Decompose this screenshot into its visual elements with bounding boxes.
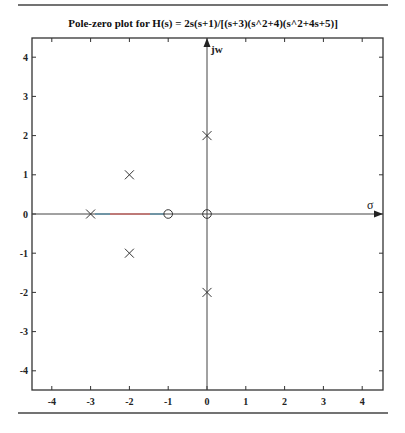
sigma-label: σ [367,198,374,212]
y-tick-label: -2 [20,287,28,298]
x-tick-label: 4 [360,396,365,407]
x-tick-label: 0 [205,396,210,407]
x-tick-label: 1 [243,396,248,407]
x-tick-label: -1 [164,396,172,407]
y-tick-label: -3 [20,326,28,337]
arrow-right-icon [374,211,383,218]
y-tick-label: -4 [20,365,28,376]
y-tick-label: 3 [23,91,28,102]
y-tick-label: 2 [23,130,28,141]
y-tick-label: 1 [23,169,28,180]
arrow-up-icon [204,38,211,47]
pole-marker-icon [125,170,134,179]
x-tick-label: -3 [86,396,94,407]
x-tick-label: 2 [282,396,287,407]
axis-ticks: -4-3-2-10123443210-1-2-3-4 [20,38,383,407]
y-tick-label: -1 [20,248,28,259]
x-tick-label: 3 [321,396,326,407]
y-tick-label: 4 [23,52,28,63]
x-tick-label: -2 [125,396,133,407]
y-tick-label: 0 [23,209,28,220]
jw-label: jw [210,43,223,55]
chart-title: Pole-zero plot for H(s) = 2s(s+1)/[(s+3)… [68,17,338,30]
x-tick-label: -4 [48,396,56,407]
pole-zero-chart: Pole-zero plot for H(s) = 2s(s+1)/[(s+3)… [0,0,405,433]
pole-marker-icon [125,249,134,258]
